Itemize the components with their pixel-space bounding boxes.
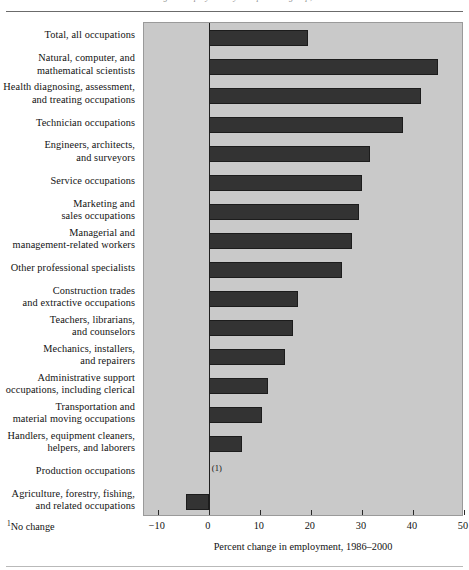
category-label-line: and surveyors bbox=[0, 152, 135, 164]
axis-tick-label: 20 bbox=[290, 520, 330, 531]
category-label-line: and related occupations bbox=[0, 500, 135, 512]
bar bbox=[209, 30, 309, 46]
category-label: Marketing andsales occupations bbox=[0, 198, 135, 223]
category-label-line: Agriculture, forestry, fishing, bbox=[0, 488, 135, 500]
footnote: 1No change bbox=[7, 519, 55, 532]
axis-tick bbox=[413, 510, 414, 515]
category-label: Total, all occupations bbox=[0, 29, 135, 41]
category-label: Other professional specialists bbox=[0, 262, 135, 274]
bar bbox=[209, 320, 293, 336]
axis-tick-label: 40 bbox=[392, 520, 432, 531]
footnote-text: No change bbox=[11, 521, 55, 532]
category-label-line: occupations, including clerical bbox=[0, 384, 135, 396]
axis-tick bbox=[464, 510, 465, 515]
bar bbox=[209, 175, 362, 191]
category-label-line: Transportation and bbox=[0, 401, 135, 413]
category-label: Administrative supportoccupations, inclu… bbox=[0, 372, 135, 397]
category-label-line: Total, all occupations bbox=[0, 29, 135, 41]
bar bbox=[209, 146, 370, 162]
category-label-line: Health diagnosing, assessment, bbox=[0, 81, 135, 93]
axis-tick bbox=[209, 510, 210, 515]
category-label-line: mathematical scientists bbox=[0, 65, 135, 77]
bar bbox=[209, 291, 298, 307]
axis-tick-label: 50 bbox=[443, 520, 469, 531]
category-label-line: material moving occupations bbox=[0, 413, 135, 425]
bar bbox=[209, 436, 242, 452]
category-label-line: Managerial and bbox=[0, 227, 135, 239]
category-label: Handlers, equipment cleaners,helpers, an… bbox=[0, 430, 135, 455]
category-label-line: Service occupations bbox=[0, 175, 135, 187]
bar bbox=[209, 88, 421, 104]
category-label: Managerial andmanagement-related workers bbox=[0, 227, 135, 252]
axis-tick-label: 0 bbox=[188, 520, 228, 531]
bar bbox=[209, 262, 342, 278]
chart-plot-area: (1) bbox=[143, 22, 463, 516]
no-change-annotation: (1) bbox=[212, 463, 222, 473]
category-label: Technician occupations bbox=[0, 117, 135, 129]
category-label-line: sales occupations bbox=[0, 210, 135, 222]
category-label-line: Production occupations bbox=[0, 465, 135, 477]
axis-tick bbox=[311, 510, 312, 515]
header-rule bbox=[6, 11, 463, 12]
category-label: Natural, computer, andmathematical scien… bbox=[0, 52, 135, 77]
category-label-line: Administrative support bbox=[0, 372, 135, 384]
category-label-line: Marketing and bbox=[0, 198, 135, 210]
footer-rule bbox=[6, 566, 463, 567]
bar bbox=[209, 349, 286, 365]
category-label-line: management-related workers bbox=[0, 239, 135, 251]
category-label-line: and repairers bbox=[0, 355, 135, 367]
category-label: Engineers, architects,and surveyors bbox=[0, 139, 135, 164]
category-label-line: Teachers, librarians, bbox=[0, 314, 135, 326]
category-label-line: Natural, computer, and bbox=[0, 52, 135, 64]
category-label: Transportation andmaterial moving occupa… bbox=[0, 401, 135, 426]
axis-tick-label: 30 bbox=[341, 520, 381, 531]
category-label: Construction tradesand extractive occupa… bbox=[0, 285, 135, 310]
category-label-line: and extractive occupations bbox=[0, 297, 135, 309]
figure-caption-clipped: Percent change in employment by occupati… bbox=[8, 0, 463, 2]
category-label-line: and treating occupations bbox=[0, 94, 135, 106]
category-label-line: Other professional specialists bbox=[0, 262, 135, 274]
category-label-line: Mechanics, installers, bbox=[0, 343, 135, 355]
category-label: Health diagnosing, assessment,and treati… bbox=[0, 81, 135, 106]
category-label-line: helpers, and laborers bbox=[0, 442, 135, 454]
bar bbox=[209, 204, 360, 220]
bar bbox=[209, 59, 439, 75]
category-label: Agriculture, forestry, fishing,and relat… bbox=[0, 488, 135, 513]
bar bbox=[186, 494, 209, 510]
bar bbox=[209, 407, 263, 423]
category-label-line: Engineers, architects, bbox=[0, 139, 135, 151]
category-label: Production occupations bbox=[0, 465, 135, 477]
category-label: Mechanics, installers,and repairers bbox=[0, 343, 135, 368]
axis-tick-label: −10 bbox=[137, 520, 177, 531]
category-label-line: Technician occupations bbox=[0, 117, 135, 129]
category-label: Service occupations bbox=[0, 175, 135, 187]
bar bbox=[209, 233, 352, 249]
axis-tick bbox=[362, 510, 363, 515]
bar bbox=[209, 117, 403, 133]
axis-tick bbox=[158, 510, 159, 515]
bar bbox=[209, 378, 268, 394]
category-label-line: and counselors bbox=[0, 326, 135, 338]
axis-tick bbox=[260, 510, 261, 515]
axis-tick-label: 10 bbox=[239, 520, 279, 531]
x-axis-title: Percent change in employment, 1986–2000 bbox=[143, 541, 463, 552]
category-label-line: Construction trades bbox=[0, 285, 135, 297]
category-label: Teachers, librarians,and counselors bbox=[0, 314, 135, 339]
category-label-line: Handlers, equipment cleaners, bbox=[0, 430, 135, 442]
